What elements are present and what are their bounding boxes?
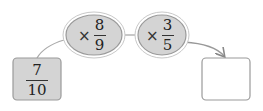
operation-2: × 3 5 <box>146 18 174 53</box>
start-denominator: 10 <box>27 83 46 98</box>
operation-1: × 8 9 <box>78 18 106 53</box>
result-value[interactable] <box>202 58 250 100</box>
op1-numerator: 8 <box>95 18 105 33</box>
op1-denominator: 9 <box>95 38 105 53</box>
multiply-icon: × <box>78 27 91 45</box>
op2-numerator: 3 <box>163 18 173 33</box>
op2-denominator: 5 <box>163 38 173 53</box>
start-numerator: 7 <box>32 63 42 78</box>
multiply-icon: × <box>146 27 159 45</box>
start-fraction: 7 10 <box>26 63 48 98</box>
connector-op2-to-result-arrow <box>184 42 224 56</box>
connector-start-to-op1 <box>37 40 64 58</box>
